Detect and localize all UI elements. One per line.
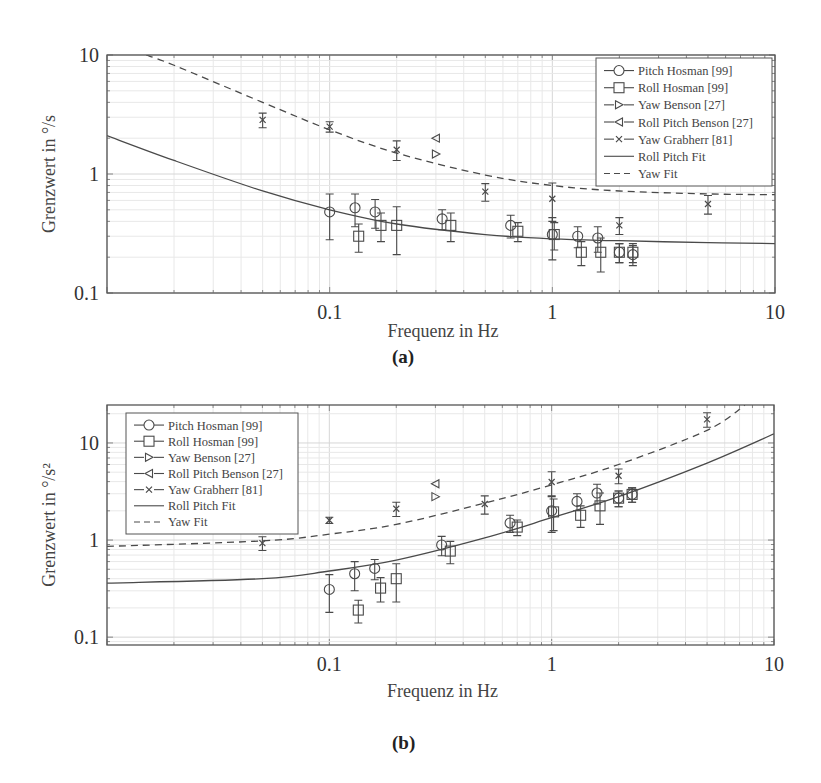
- x-tick-label: 0.1: [317, 653, 342, 675]
- legend-label: Yaw Fit: [168, 515, 208, 529]
- figure-b: 0.11100.1110Frequenz in HzGrenzwert in °…: [0, 0, 821, 783]
- y-tick-label: 10: [79, 432, 99, 454]
- legend-item: Roll Hosman [99]: [134, 435, 258, 449]
- x-axis-label: Frequenz in Hz: [387, 681, 498, 701]
- legend-marker: [144, 436, 154, 446]
- legend-marker: [144, 452, 154, 462]
- x-tick-label: 1: [547, 653, 557, 675]
- error-bar: [548, 472, 556, 496]
- legend-label: Roll Pitch Benson [27]: [168, 467, 283, 481]
- y-tick-label: 0.1: [74, 626, 99, 648]
- legend-label: Yaw Grabherr [81]: [168, 483, 263, 497]
- legend-label: Roll Pitch Fit: [168, 499, 236, 513]
- legend-marker: [144, 485, 154, 495]
- chart-b-plot: 0.11100.1110Frequenz in HzGrenzwert in °…: [0, 0, 821, 783]
- legend-label: Yaw Benson [27]: [168, 451, 255, 465]
- x-tick-label: 10: [764, 653, 784, 675]
- legend-marker: [144, 420, 154, 430]
- legend-marker-bg: [144, 436, 154, 446]
- error-bar: [438, 536, 446, 555]
- legend-label: Roll Hosman [99]: [168, 435, 258, 449]
- legend: Pitch Hosman [99]Roll Hosman [99]Yaw Ben…: [126, 413, 298, 534]
- legend-label: Pitch Hosman [99]: [168, 419, 262, 433]
- error-bar: [481, 496, 489, 514]
- caption-b: (b): [392, 732, 415, 754]
- error-bar: [351, 562, 359, 591]
- legend-marker: [144, 469, 154, 479]
- error-bar: [354, 600, 362, 623]
- y-axis-label: Grenzwert in °/s²: [39, 463, 59, 587]
- error-bar: [550, 499, 558, 531]
- error-bar: [377, 578, 385, 602]
- y-tick-label: 1: [89, 529, 99, 551]
